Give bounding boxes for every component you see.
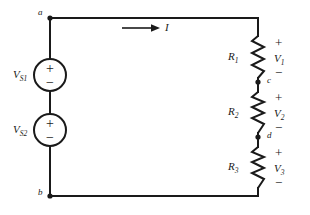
node-dot-a [47,15,52,20]
vs1-plus-sign: + [46,62,54,76]
circuit-schematic-canvas [0,0,310,215]
r3-minus-sign: − [275,176,282,189]
circuit-diagram: a b c d I VS1 + − VS2 + − R1 + V1 − R2 +… [0,0,310,215]
r2-minus-sign: − [275,121,282,134]
r3-symbol-text: R [228,160,235,172]
voltage-source-vs2-label: VS2 [13,124,27,138]
current-label: I [165,22,169,33]
resistor-r1-symbol [252,36,264,78]
r2-plus-sign: + [275,91,282,104]
node-label-c: c [267,76,271,85]
r1-symbol-text: R [228,50,235,62]
r3-subscript: 3 [235,166,239,175]
v3-symbol-text: V [274,162,281,174]
voltage-source-vs1-label: VS1 [13,69,27,83]
r3-plus-sign: + [275,146,282,159]
resistor-r2-label: R2 [228,106,238,120]
vs1-minus-sign: − [46,76,54,90]
r1-minus-sign: − [275,66,282,79]
r1-subscript: 1 [235,56,239,65]
node-dot-d [255,134,260,139]
node-label-b: b [38,188,43,197]
r2-symbol-text: R [228,105,235,117]
current-arrow-icon [122,24,160,32]
node-dot-b [47,193,52,198]
vs1-subscript: S1 [20,74,28,83]
vs2-subscript: S2 [20,129,28,138]
r1-plus-sign: + [275,36,282,49]
resistor-r1-label: R1 [228,51,238,65]
resistor-r2-symbol [252,92,264,133]
v1-symbol-text: V [274,52,281,64]
vs2-minus-sign: − [46,131,54,145]
node-label-a: a [38,8,43,17]
node-dot-c [255,79,260,84]
resistor-r3-label: R3 [228,161,238,175]
resistor-r3-symbol [252,147,264,188]
v2-symbol-text: V [274,107,281,119]
circuit-wires [50,18,258,196]
node-label-d: d [267,131,272,140]
vs2-plus-sign: + [46,117,54,131]
vs1-symbol-text: V [13,68,20,80]
r2-subscript: 2 [235,111,239,120]
vs2-symbol-text: V [13,123,20,135]
